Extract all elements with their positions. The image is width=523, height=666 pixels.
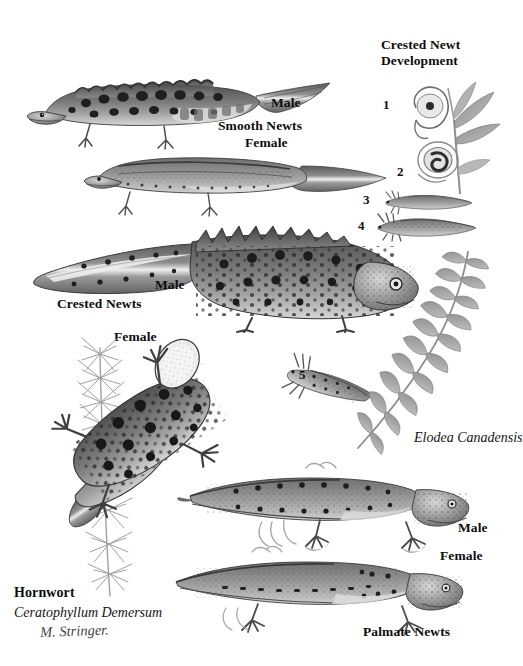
smooth-male-label: Male: [271, 96, 301, 110]
development-stage-3-illustration: [378, 190, 474, 214]
stage-3-number: 3: [363, 192, 370, 208]
stage-5-number: 5: [299, 367, 306, 383]
development-heading-line2: Development: [381, 54, 458, 68]
stage-1-number: 1: [383, 97, 390, 113]
hornwort-common-name: Hornwort: [14, 586, 75, 601]
palmate-newt-male-illustration: [176, 462, 496, 554]
development-heading-line1: Crested Newt: [381, 38, 460, 52]
crested-newts-caption: Crested Newts: [57, 297, 142, 311]
palmate-newt-female-illustration: [166, 548, 486, 634]
palmate-male-label: Male: [458, 521, 488, 535]
smooth-newts-caption: Smooth Newts: [218, 119, 302, 133]
smooth-newt-female-illustration: [84, 146, 396, 218]
development-stage-1-2-illustration: [398, 82, 510, 200]
hornwort-scientific-name: Ceratophyllum Demersum: [14, 605, 162, 621]
elodea-scientific-name: Elodea Canadensis: [414, 430, 523, 446]
stage-2-number: 2: [397, 164, 404, 180]
crested-male-label: Male: [155, 278, 185, 292]
palmate-newts-caption: Palmate Newts: [363, 625, 450, 639]
artist-signature: M. Stringer.: [40, 621, 109, 641]
